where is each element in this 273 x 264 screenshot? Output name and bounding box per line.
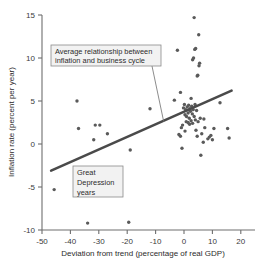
data-point [189, 97, 192, 100]
depression-callout-line-2: Depression [77, 178, 114, 187]
data-point [187, 104, 190, 107]
x-tick-label-minus50: -50 [36, 237, 48, 246]
data-point [94, 123, 97, 126]
data-point [179, 135, 182, 138]
data-point [176, 49, 179, 52]
data-point [198, 61, 201, 64]
data-point [197, 33, 200, 36]
x-tick-label-minus30: -30 [93, 237, 105, 246]
average-relationship-trend-line [51, 91, 231, 171]
data-point [194, 129, 197, 132]
data-point [192, 16, 195, 19]
depression-callout-line-3: years [77, 188, 95, 197]
data-point [183, 103, 186, 106]
depression-callout: Great Depression years [73, 166, 123, 197]
x-axis-ticks: -50 -40 -30 -20 -10 0 10 20 [36, 230, 246, 246]
data-point [75, 99, 78, 102]
data-point [188, 123, 191, 126]
x-tick-label-0: 0 [182, 237, 187, 246]
data-point [127, 221, 130, 224]
data-point [183, 129, 186, 132]
y-tick-label-0: 0 [31, 140, 36, 149]
data-point [181, 123, 184, 126]
data-point [202, 117, 205, 120]
data-point [92, 138, 95, 141]
y-axis-ticks: 15 10 5 0 -5 -10 [23, 11, 42, 235]
data-point [199, 117, 202, 120]
data-point [191, 122, 194, 125]
data-point [200, 132, 203, 135]
x-tick-label-minus40: -40 [65, 237, 77, 246]
data-point [192, 56, 195, 59]
data-point [196, 120, 199, 123]
x-tick-label-10: 10 [208, 237, 217, 246]
y-tick-label-minus10: -10 [23, 226, 35, 235]
trend-callout-leader-line [152, 66, 164, 122]
data-point [180, 147, 183, 150]
scatter-plot: 15 10 5 0 -5 -10 -50 -40 -30 -20 -10 0 1… [0, 0, 273, 264]
data-point [106, 132, 109, 135]
data-point [202, 141, 205, 144]
chart-figure: 15 10 5 0 -5 -10 -50 -40 -30 -20 -10 0 1… [0, 0, 273, 264]
trend-callout-line-1: Average relationship between [55, 47, 152, 56]
x-tick-label-minus10: -10 [150, 237, 162, 246]
y-tick-label-15: 15 [26, 11, 35, 20]
data-point [179, 91, 182, 94]
data-point [196, 74, 199, 77]
data-point [98, 123, 101, 126]
x-tick-label-20: 20 [236, 237, 245, 246]
data-point [218, 101, 221, 104]
data-point [52, 188, 55, 191]
depression-callout-line-1: Great [77, 168, 95, 177]
x-tick-label-minus20: -20 [121, 237, 133, 246]
data-point [209, 134, 212, 137]
data-point [195, 135, 198, 138]
y-tick-label-minus5: -5 [28, 183, 36, 192]
data-point [203, 126, 206, 129]
data-point [192, 115, 195, 118]
data-point [195, 109, 198, 112]
trend-callout: Average relationship between inflation a… [51, 45, 161, 66]
trend-callout-line-2: inflation and business cycle [55, 56, 145, 65]
data-point [194, 47, 197, 50]
y-tick-label-10: 10 [26, 54, 35, 63]
data-point [211, 138, 214, 141]
data-point [212, 127, 215, 130]
data-point [226, 127, 229, 130]
data-point [148, 107, 151, 110]
data-point [86, 221, 89, 224]
data-point [173, 98, 176, 101]
data-point [77, 127, 80, 130]
x-axis-title: Deviation from trend (percentage of real… [61, 249, 225, 258]
y-axis-title: Inflation rate (percent per year) [7, 67, 16, 177]
data-point [227, 136, 230, 139]
data-point [129, 148, 132, 151]
data-point [199, 153, 202, 156]
y-tick-label-5: 5 [31, 97, 36, 106]
